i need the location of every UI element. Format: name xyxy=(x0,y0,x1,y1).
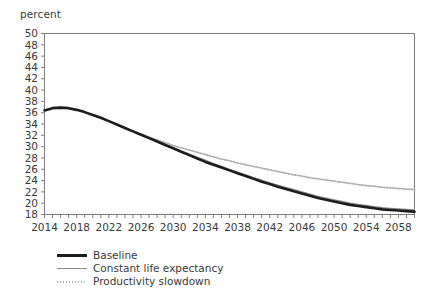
series-line-baseline xyxy=(45,108,415,212)
legend-item-baseline: Baseline xyxy=(57,249,387,262)
y-tick-label: 34 xyxy=(25,118,39,130)
y-tick-label: 40 xyxy=(25,84,38,96)
x-tick-label: 2050 xyxy=(321,221,348,233)
y-tick-label: 44 xyxy=(25,61,39,73)
x-tick-label: 2014 xyxy=(31,221,58,233)
series-lines xyxy=(45,108,415,212)
y-axis-ticks: 1820222426283032343638404244464850 xyxy=(25,27,45,220)
y-tick-label: 38 xyxy=(25,95,38,107)
x-tick-label: 2054 xyxy=(353,221,380,233)
y-tick-label: 46 xyxy=(25,50,39,62)
legend-swatch-productivity-slowdown-icon xyxy=(57,276,87,288)
y-tick-label: 36 xyxy=(25,106,39,118)
y-tick-label: 26 xyxy=(25,163,39,175)
legend-label-productivity-slowdown: Productivity slowdown xyxy=(87,275,210,288)
x-tick-label: 2018 xyxy=(63,221,90,233)
chart-container: percent 18202224262830323436384042444648… xyxy=(0,0,427,293)
x-tick-label: 2022 xyxy=(95,221,122,233)
legend-label-baseline: Baseline xyxy=(87,249,138,262)
x-tick-label: 2038 xyxy=(224,221,251,233)
y-tick-label: 48 xyxy=(25,39,38,51)
x-tick-label: 2042 xyxy=(256,221,283,233)
x-tick-label: 2026 xyxy=(128,221,155,233)
legend-swatch-baseline-icon xyxy=(57,250,87,262)
y-tick-label: 32 xyxy=(25,129,38,141)
x-tick-label: 2034 xyxy=(192,221,219,233)
x-tick-label: 2030 xyxy=(160,221,187,233)
series-line-constant-life-expectancy xyxy=(45,108,415,210)
y-tick-label: 50 xyxy=(25,27,38,39)
y-tick-label: 20 xyxy=(25,197,38,209)
legend-label-constant-life-expectancy: Constant life expectancy xyxy=(87,262,223,275)
x-tick-label: 2058 xyxy=(385,221,412,233)
chart-legend: Baseline Constant life expectancy Produc… xyxy=(57,249,387,288)
y-tick-label: 22 xyxy=(25,186,38,198)
legend-swatch-constant-life-expectancy-icon xyxy=(57,263,87,275)
legend-item-productivity-slowdown: Productivity slowdown xyxy=(57,275,387,288)
y-tick-label: 42 xyxy=(25,72,38,84)
y-tick-label: 24 xyxy=(25,174,39,186)
y-tick-label: 30 xyxy=(25,140,38,152)
y-tick-label: 18 xyxy=(25,208,38,220)
plot-frame xyxy=(45,34,415,215)
series-line-productivity-slowdown xyxy=(45,108,415,190)
y-tick-label: 28 xyxy=(25,152,38,164)
x-tick-label: 2046 xyxy=(289,221,316,233)
x-axis-ticks: 2014201820222026203020342038204220462050… xyxy=(31,215,414,233)
legend-item-constant-life-expectancy: Constant life expectancy xyxy=(57,262,387,275)
